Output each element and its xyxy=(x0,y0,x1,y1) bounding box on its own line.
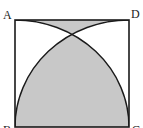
vertex-label-a: A xyxy=(3,8,12,22)
shaded-top-region xyxy=(30,20,114,34)
vertex-label-c: C xyxy=(132,123,140,128)
vertex-label-b: B xyxy=(3,123,11,128)
vertex-label-d: D xyxy=(131,7,140,21)
square-diagram: A B C D xyxy=(0,0,143,128)
shaded-lower-region xyxy=(15,34,129,127)
